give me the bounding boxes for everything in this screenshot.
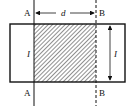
label-b-bottom: B [99,88,105,98]
label-a-bottom: A [24,88,31,98]
hatched-region [34,24,96,82]
label-a-top: A [24,8,31,18]
label-current-right: I [113,49,118,59]
label-b-top: B [99,8,105,18]
label-current-left: I [26,49,31,59]
diagram: A B A B d I I [0,0,134,106]
label-distance: d [61,8,66,18]
